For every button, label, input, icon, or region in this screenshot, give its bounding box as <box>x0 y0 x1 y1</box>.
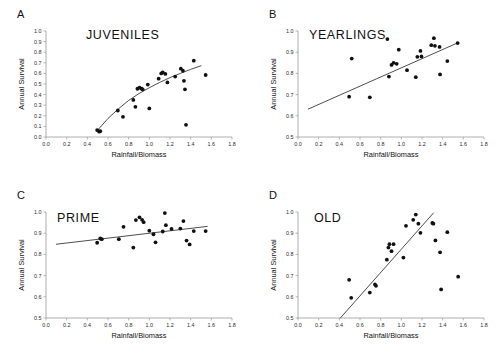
svg-text:1.8: 1.8 <box>228 322 236 328</box>
svg-text:0.8: 0.8 <box>125 322 133 328</box>
svg-text:1.4: 1.4 <box>439 322 447 328</box>
svg-text:Rainfall/Biomass: Rainfall/Biomass <box>111 331 166 340</box>
svg-text:0.6: 0.6 <box>356 141 364 147</box>
svg-text:0.0: 0.0 <box>42 141 50 147</box>
svg-text:Annual Survival: Annual Survival <box>269 239 278 291</box>
panel-b-yearlings: B YEARLINGS 0.50.60.70.80.91.00.00.20.40… <box>252 0 503 181</box>
svg-text:0.8: 0.8 <box>377 322 385 328</box>
svg-text:0.5: 0.5 <box>286 134 294 140</box>
svg-text:1.4: 1.4 <box>187 141 195 147</box>
svg-text:0.4: 0.4 <box>84 141 92 147</box>
svg-text:0.5: 0.5 <box>34 81 42 87</box>
svg-text:Rainfall/Biomass: Rainfall/Biomass <box>363 150 418 159</box>
svg-text:0.7: 0.7 <box>34 60 42 66</box>
svg-text:1.2: 1.2 <box>418 322 426 328</box>
svg-text:0.5: 0.5 <box>286 315 294 321</box>
svg-text:0.2: 0.2 <box>315 141 323 147</box>
svg-text:0.4: 0.4 <box>84 322 92 328</box>
svg-text:0.9: 0.9 <box>286 49 294 55</box>
svg-text:0.3: 0.3 <box>34 102 42 108</box>
scatter-plot-c: 0.50.60.70.80.91.00.00.20.40.60.81.01.21… <box>0 181 251 362</box>
svg-text:0.0: 0.0 <box>294 141 302 147</box>
svg-text:0.6: 0.6 <box>34 294 42 300</box>
svg-text:1.6: 1.6 <box>208 322 216 328</box>
svg-text:1.6: 1.6 <box>460 141 468 147</box>
svg-text:0.4: 0.4 <box>336 141 344 147</box>
scatter-plot-b: 0.50.60.70.80.91.00.00.20.40.60.81.01.21… <box>252 0 503 181</box>
svg-text:Annual Survival: Annual Survival <box>17 239 26 291</box>
svg-text:0.6: 0.6 <box>34 70 42 76</box>
svg-text:1.0: 1.0 <box>398 141 406 147</box>
svg-text:0.4: 0.4 <box>34 92 42 98</box>
svg-text:0.9: 0.9 <box>34 39 42 45</box>
svg-text:0.8: 0.8 <box>286 251 294 257</box>
scatter-plot-d: 0.50.60.70.80.91.00.00.20.40.60.81.01.21… <box>252 181 503 362</box>
svg-text:0.6: 0.6 <box>104 322 112 328</box>
svg-text:0.8: 0.8 <box>125 141 133 147</box>
svg-text:1.4: 1.4 <box>187 322 195 328</box>
svg-text:0.7: 0.7 <box>286 92 294 98</box>
svg-text:0.1: 0.1 <box>34 123 42 129</box>
svg-text:0.5: 0.5 <box>34 315 42 321</box>
svg-text:0.6: 0.6 <box>356 322 364 328</box>
svg-text:0.6: 0.6 <box>104 141 112 147</box>
svg-text:1.6: 1.6 <box>460 322 468 328</box>
svg-text:0.0: 0.0 <box>34 134 42 140</box>
svg-text:Annual Survival: Annual Survival <box>269 58 278 110</box>
svg-text:Annual Survival: Annual Survival <box>17 58 26 110</box>
svg-text:Rainfall/Biomass: Rainfall/Biomass <box>111 150 166 159</box>
svg-text:0.0: 0.0 <box>294 322 302 328</box>
svg-text:1.0: 1.0 <box>398 322 406 328</box>
svg-text:0.7: 0.7 <box>286 273 294 279</box>
svg-text:1.2: 1.2 <box>166 322 174 328</box>
svg-text:Rainfall/Biomass: Rainfall/Biomass <box>363 331 418 340</box>
panel-c-prime: C PRIME 0.50.60.70.80.91.00.00.20.40.60.… <box>0 181 251 362</box>
svg-text:0.8: 0.8 <box>34 49 42 55</box>
figure-panel-grid: A JUVENILES 0.00.10.20.30.40.50.60.70.80… <box>0 0 503 363</box>
svg-text:0.2: 0.2 <box>34 113 42 119</box>
scatter-plot-a: 0.00.10.20.30.40.50.60.70.80.91.00.00.20… <box>0 0 251 181</box>
svg-text:1.8: 1.8 <box>480 141 488 147</box>
svg-text:1.0: 1.0 <box>286 28 294 34</box>
svg-text:0.7: 0.7 <box>34 273 42 279</box>
svg-text:1.8: 1.8 <box>228 141 236 147</box>
svg-text:1.0: 1.0 <box>286 209 294 215</box>
svg-text:1.0: 1.0 <box>34 209 42 215</box>
svg-text:1.4: 1.4 <box>439 141 447 147</box>
svg-text:0.8: 0.8 <box>34 251 42 257</box>
svg-text:0.2: 0.2 <box>63 141 71 147</box>
panel-a-juveniles: A JUVENILES 0.00.10.20.30.40.50.60.70.80… <box>0 0 251 181</box>
svg-text:1.2: 1.2 <box>166 141 174 147</box>
svg-text:1.0: 1.0 <box>34 28 42 34</box>
svg-text:1.8: 1.8 <box>480 322 488 328</box>
panel-d-old: D OLD 0.50.60.70.80.91.00.00.20.40.60.81… <box>252 181 503 362</box>
svg-text:0.2: 0.2 <box>63 322 71 328</box>
svg-text:1.0: 1.0 <box>146 322 154 328</box>
svg-text:0.8: 0.8 <box>377 141 385 147</box>
svg-text:0.2: 0.2 <box>315 322 323 328</box>
svg-text:0.6: 0.6 <box>286 113 294 119</box>
svg-text:0.4: 0.4 <box>336 322 344 328</box>
svg-text:0.9: 0.9 <box>286 230 294 236</box>
svg-text:0.6: 0.6 <box>286 294 294 300</box>
svg-text:0.8: 0.8 <box>286 70 294 76</box>
svg-text:1.6: 1.6 <box>208 141 216 147</box>
svg-text:1.2: 1.2 <box>418 141 426 147</box>
svg-text:0.9: 0.9 <box>34 230 42 236</box>
svg-text:0.0: 0.0 <box>42 322 50 328</box>
svg-text:1.0: 1.0 <box>146 141 154 147</box>
